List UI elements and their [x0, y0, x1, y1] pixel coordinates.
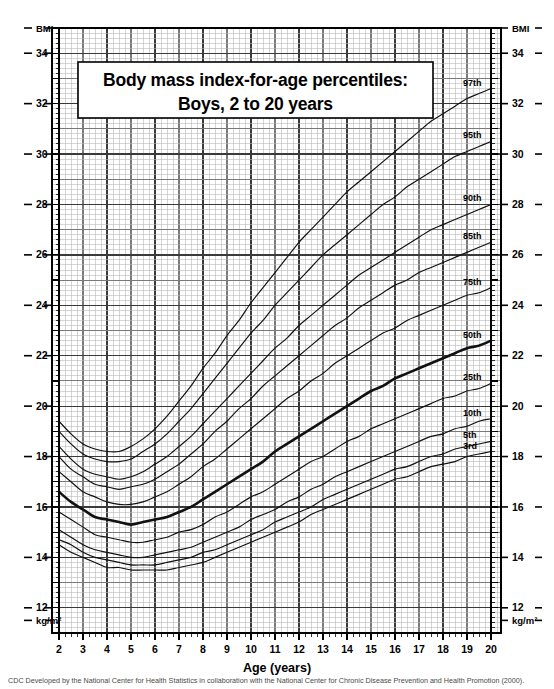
- y-tick-label-right-24: 24: [512, 299, 524, 311]
- y-tick-label-right-34: 34: [512, 47, 524, 59]
- y-tick-label-right-12: 12: [512, 601, 524, 613]
- y-tick-label-right-30: 30: [512, 148, 524, 160]
- x-tick-label-13: 13: [317, 643, 329, 655]
- x-tick-label-20: 20: [485, 643, 497, 655]
- x-tick-label-2: 2: [56, 643, 62, 655]
- percentile-label-85th: 85th: [463, 231, 482, 241]
- x-tick-label-9: 9: [224, 643, 230, 655]
- percentile-label-75th: 75th: [463, 277, 482, 287]
- y-tick-label-right-28: 28: [512, 198, 524, 210]
- chart-title-line-1: Body mass index-for-age percentiles:: [103, 70, 408, 90]
- x-tick-label-14: 14: [341, 643, 353, 655]
- x-tick-label-19: 19: [461, 643, 473, 655]
- chart-title-layer: Body mass index-for-age percentiles: Boy…: [78, 62, 433, 118]
- y-tick-label-right-16: 16: [512, 501, 524, 513]
- chart-canvas: BMIBMI3434323230302828262624242222202018…: [0, 0, 554, 689]
- x-tick-label-8: 8: [200, 643, 206, 655]
- y-axis-unit-label-right: kg/m²: [512, 615, 537, 626]
- percentile-label-3rd: 3rd: [463, 441, 477, 451]
- x-tick-label-10: 10: [245, 643, 257, 655]
- x-tick-label-15: 15: [365, 643, 377, 655]
- percentile-label-97th: 97th: [463, 78, 482, 88]
- percentile-label-10th: 10th: [463, 408, 482, 418]
- y-tick-label-right-20: 20: [512, 400, 524, 412]
- x-tick-label-11: 11: [269, 643, 280, 655]
- x-tick-label-18: 18: [437, 643, 449, 655]
- percentile-label-50th: 50th: [463, 330, 482, 340]
- y-tick-label-right-18: 18: [512, 450, 524, 462]
- x-axis-title: Age (years): [243, 661, 311, 675]
- y-axis-bmi-label-right: BMI: [512, 23, 529, 34]
- x-tick-label-17: 17: [413, 643, 425, 655]
- x-tick-label-5: 5: [128, 643, 134, 655]
- percentile-label-5th: 5th: [463, 430, 477, 440]
- y-tick-label-right-26: 26: [512, 248, 524, 260]
- y-tick-label-right-32: 32: [512, 97, 524, 109]
- x-tick-label-3: 3: [80, 643, 86, 655]
- x-tick-label-16: 16: [389, 643, 401, 655]
- x-tick-label-6: 6: [152, 643, 158, 655]
- x-tick-label-7: 7: [176, 643, 182, 655]
- x-tick-label-4: 4: [104, 643, 110, 655]
- percentile-label-25th: 25th: [463, 372, 482, 382]
- x-tick-label-12: 12: [293, 643, 305, 655]
- y-tick-label-right-22: 22: [512, 349, 524, 361]
- chart-caption: CDC Developed by the National Center for…: [8, 676, 548, 685]
- percentile-label-95th: 95th: [463, 130, 482, 140]
- bmi-growth-chart: BMIBMI3434323230302828262624242222202018…: [0, 0, 554, 689]
- percentile-label-90th: 90th: [463, 193, 482, 203]
- y-tick-label-right-14: 14: [512, 551, 524, 563]
- chart-title-line-2: Boys, 2 to 20 years: [178, 94, 333, 114]
